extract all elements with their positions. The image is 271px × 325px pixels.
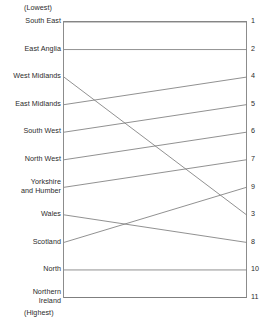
- left-axis-label-line: East Anglia: [24, 45, 61, 54]
- left-axis-label-line: West Midlands: [13, 72, 61, 81]
- left-axis-label-line: Wales: [41, 210, 61, 219]
- right-axis-rank: 6: [251, 127, 255, 136]
- right-axis-rank: 3: [251, 210, 255, 219]
- left-axis-label-line: South West: [23, 127, 61, 136]
- left-axis-label: Yorkshireand Humber: [3, 178, 61, 195]
- left-axis-label: South East: [25, 17, 61, 26]
- slope-line: [64, 160, 247, 188]
- right-axis-rank: 8: [251, 238, 255, 247]
- left-axis-label-line: East Midlands: [15, 100, 61, 109]
- left-axis-label: Wales: [41, 210, 61, 219]
- slope-line: [64, 105, 247, 133]
- left-axis-label: North: [43, 265, 61, 274]
- right-axis-rank: 1: [251, 17, 255, 26]
- right-axis-rank: 10: [251, 265, 259, 274]
- left-axis-label: East Midlands: [15, 100, 61, 109]
- right-axis-rank: 4: [251, 72, 255, 81]
- slope-line: [64, 187, 247, 242]
- right-axis-rank: 2: [251, 45, 255, 54]
- left-axis-label: South West: [23, 127, 61, 136]
- left-axis-label-line: and Humber: [3, 187, 61, 196]
- left-axis-label-line: North West: [25, 155, 61, 164]
- right-axis-rank: 9: [251, 183, 255, 192]
- slope-line-group: [64, 22, 247, 298]
- left-axis-label: North West: [25, 155, 61, 164]
- left-axis-label: NorthernIreland: [3, 288, 61, 305]
- right-axis-rank: 5: [251, 100, 255, 109]
- right-axis-rank: 7: [251, 155, 255, 164]
- left-axis-label-line: North: [43, 265, 61, 274]
- left-axis-label-line: Scotland: [33, 238, 61, 247]
- slope-line: [64, 77, 247, 105]
- left-axis-label-line: Ireland: [3, 297, 61, 306]
- slope-line: [64, 215, 247, 243]
- right-axis-rank: 11: [251, 293, 258, 302]
- slope-line: [64, 132, 247, 160]
- left-axis-label: East Anglia: [24, 45, 61, 54]
- highest-caption: (Highest): [24, 308, 54, 317]
- left-axis-label-line: South East: [25, 17, 61, 26]
- plot-frame: [64, 22, 247, 298]
- slope-chart: (Lowest) South EastEast AngliaWest Midla…: [0, 0, 271, 325]
- left-axis-label: Scotland: [33, 238, 61, 247]
- left-axis-label: West Midlands: [13, 72, 61, 81]
